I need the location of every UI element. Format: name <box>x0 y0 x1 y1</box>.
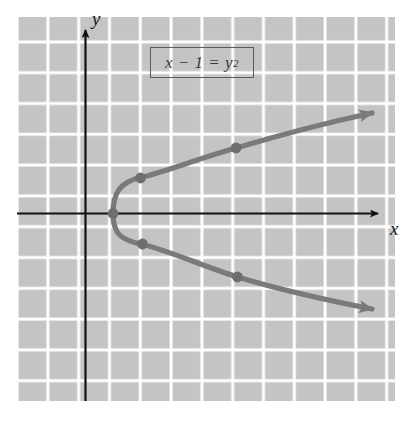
equation-exponent: 2 <box>233 57 239 69</box>
point-upper-inner <box>135 173 146 184</box>
point-vertex <box>108 208 119 219</box>
equation-annotation: x − 1 = y2 <box>150 47 254 78</box>
equation-text: x − 1 = y <box>165 53 233 73</box>
point-lower-inner <box>137 239 148 250</box>
y-axis-label: y <box>92 8 100 30</box>
point-lower-outer <box>232 272 243 283</box>
x-axis-label: x <box>390 218 398 240</box>
point-upper-outer <box>231 143 242 154</box>
